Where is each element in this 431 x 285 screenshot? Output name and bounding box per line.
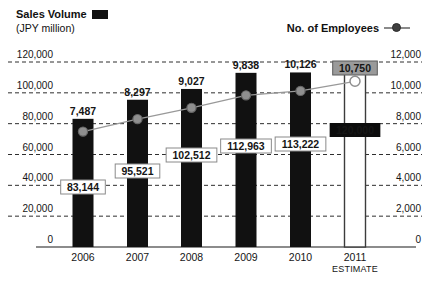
employees-point bbox=[187, 103, 196, 112]
legend-sales: Sales Volume (JPY million) bbox=[16, 8, 108, 34]
x-axis-year-label: 2010 bbox=[289, 251, 313, 263]
sales-value-label: 113,222 bbox=[282, 138, 320, 150]
employees-point-estimate bbox=[350, 76, 360, 86]
right-axis-tick: 2,000 bbox=[396, 203, 421, 214]
right-axis-tick: 0 bbox=[415, 234, 421, 245]
sales-value-label: 95,521 bbox=[121, 165, 153, 177]
left-axis-tick: 60,000 bbox=[22, 142, 53, 153]
left-axis-tick: 0 bbox=[47, 234, 53, 245]
sales-legend-label: Sales Volume bbox=[16, 8, 87, 20]
left-axis-tick: 80,000 bbox=[22, 111, 53, 122]
bar bbox=[290, 72, 311, 247]
right-axis-tick: 6,000 bbox=[396, 142, 421, 153]
employees-value-label: 7,487 bbox=[70, 105, 96, 117]
left-axis-tick: 40,000 bbox=[22, 172, 53, 183]
employees-point bbox=[296, 86, 305, 95]
left-axis-tick: 20,000 bbox=[22, 203, 53, 214]
x-axis-year-label: 2011 bbox=[344, 251, 367, 263]
x-axis-year-label: 2006 bbox=[71, 251, 95, 263]
employees-legend-label: No. of Employees bbox=[287, 22, 379, 34]
sales-bar-swatch-icon bbox=[92, 10, 108, 19]
sales-legend-unit: (JPY million) bbox=[16, 22, 108, 34]
right-axis-tick: 8,000 bbox=[396, 111, 421, 122]
x-axis-year-label: 2008 bbox=[180, 251, 204, 263]
employees-value-label: 10,750 bbox=[339, 62, 371, 74]
left-axis-tick: 100,000 bbox=[17, 80, 54, 91]
employees-line-marker-icon bbox=[384, 23, 410, 33]
bar-estimate bbox=[345, 62, 366, 247]
left-axis-tick: 120,000 bbox=[17, 49, 54, 60]
sales-value-label: 83,144 bbox=[67, 181, 99, 193]
x-axis-year-label: 2009 bbox=[234, 251, 258, 263]
chart-figure: 120,000100,00080,00060,00040,00020,00001… bbox=[0, 0, 431, 285]
right-axis-tick: 4,000 bbox=[396, 172, 421, 183]
employees-point bbox=[78, 127, 87, 136]
employees-value-label: 9,027 bbox=[178, 75, 204, 87]
right-axis-tick: 10,000 bbox=[390, 80, 421, 91]
employees-value-label: 8,297 bbox=[124, 86, 150, 98]
employees-value-label: 9,838 bbox=[233, 59, 259, 71]
employees-point bbox=[133, 114, 142, 123]
employees-value-label: 10,126 bbox=[284, 58, 316, 70]
legend-employees: No. of Employees bbox=[287, 22, 410, 34]
employees-point bbox=[241, 91, 250, 100]
marker-dot bbox=[392, 23, 401, 32]
sales-value-label: 112,963 bbox=[227, 140, 265, 152]
sales-value-label: 120,000 bbox=[336, 124, 374, 136]
sales-value-label: 102,512 bbox=[173, 149, 211, 161]
right-axis-tick: 12,000 bbox=[390, 49, 421, 60]
x-axis-estimate-label: ESTIMATE bbox=[332, 264, 378, 274]
chart-svg: 120,000100,00080,00060,00040,00020,00001… bbox=[0, 0, 431, 285]
x-axis-year-label: 2007 bbox=[126, 251, 150, 263]
